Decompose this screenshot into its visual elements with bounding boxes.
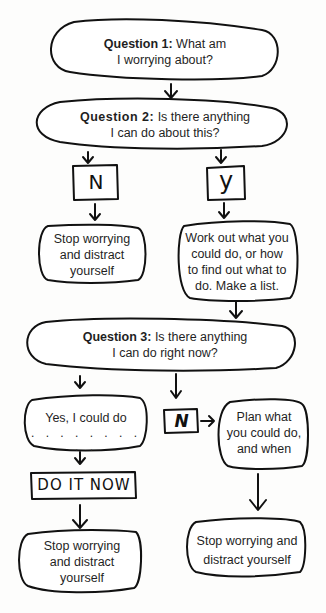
q2-text-line2: I can do about this? — [110, 126, 219, 140]
flowchart-shapes — [0, 0, 326, 613]
q2-yes-result-text: Work out what you could do, or how to fi… — [178, 230, 296, 294]
arrow-no-plan — [201, 416, 214, 426]
arrow-to-q3 — [230, 302, 242, 318]
q1-text: Question 1: What am I worrying about? — [60, 36, 270, 68]
q2-yes-result-line1: Work out what you — [185, 231, 288, 245]
q3-yes-result-line3: yourself — [60, 571, 104, 585]
q3-text-line1: Is there anything — [151, 330, 247, 344]
arrow-q2-no — [83, 152, 93, 163]
q3-yes-result-line2: and distract — [50, 555, 115, 569]
do-it-now-label: DO IT NOW — [32, 476, 136, 494]
q2-no-letter: N — [74, 170, 118, 194]
q2-text-line1: Is there anything — [154, 110, 250, 124]
q2-no-result-text: Stop worrying and distract yourself — [40, 231, 144, 279]
q2-label: Question 2: — [80, 110, 154, 124]
q2-yes-result-line4: do. Make a list. — [195, 279, 279, 293]
q2-yes-letter: y — [207, 169, 245, 193]
q3-text-line2: I can do right now? — [112, 346, 218, 360]
q3-no-plan-line1: Plan what — [237, 410, 292, 424]
arrow-doit-stop — [73, 505, 87, 528]
arrow-q3-no — [171, 374, 181, 398]
q2-text: Question 2: Is there anything I can do a… — [40, 109, 290, 141]
q3-yes-result-line1: Stop worrying — [44, 539, 120, 553]
arrow-plan-stop — [250, 474, 266, 510]
q3-yes-blank: . . . . . . . . . . — [26, 426, 146, 454]
q3-yes-line1: Yes, I could do — [45, 411, 127, 425]
arrow-no-result — [90, 204, 100, 220]
q1-text-line1: What am — [173, 37, 227, 51]
q2-no-result-line2: and distract — [60, 248, 125, 262]
q3-no-letter: N — [165, 409, 198, 433]
q3-label: Question 3: — [83, 330, 152, 344]
q1-label: Question 1: — [104, 37, 173, 51]
q3-text: Question 3: Is there anything I can do r… — [40, 329, 290, 361]
arrow-q1-q2 — [165, 84, 177, 98]
q1-text-line2: I worrying about? — [117, 53, 213, 67]
q3-no-result-line1: Stop worrying and — [197, 534, 298, 548]
q3-no-plan-line3: and when — [237, 442, 291, 456]
q3-no-result-text: Stop worrying and distract yourself — [186, 532, 308, 570]
q2-yes-result-line2: could do, or how — [191, 247, 283, 261]
q2-yes-result-line3: to find out what to — [188, 263, 287, 277]
q3-yes-result-text: Stop worrying and distract yourself — [24, 538, 140, 586]
q3-no-result-line2: distract yourself — [203, 553, 291, 567]
arrow-yes-result — [219, 203, 229, 218]
q3-yes-text: Yes, I could do — [26, 410, 146, 426]
q3-no-plan-text: Plan what you could do, and when — [218, 409, 310, 457]
arrow-q3-yes — [75, 376, 85, 388]
q3-no-plan-line2: you could do, — [227, 426, 301, 440]
arrow-q2-yes — [216, 150, 226, 163]
q2-no-result-line1: Stop worrying — [54, 232, 130, 246]
q2-no-result-line3: yourself — [70, 264, 114, 278]
